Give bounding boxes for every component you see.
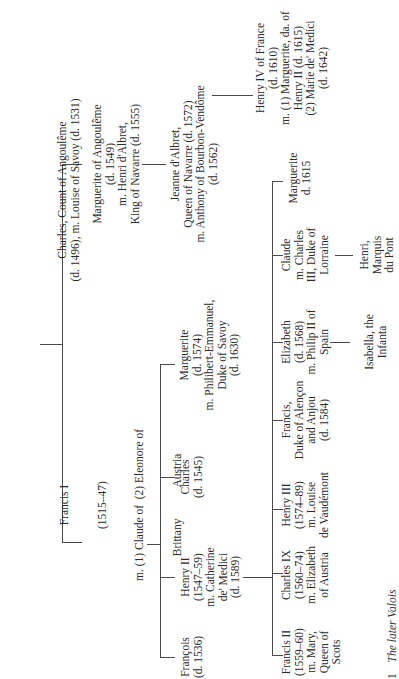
detail-line: (d. 1568) <box>293 309 306 374</box>
detail-line: Henry II (d. 1615) <box>291 11 304 125</box>
detail-line: and Anjou <box>305 381 318 460</box>
detail-line: de Vaudémont <box>318 472 331 538</box>
connector-to-francois <box>160 657 175 658</box>
detail-line: m. Catherine <box>204 547 217 606</box>
detail-line: Spain <box>318 309 331 374</box>
detail-line: (d. 1630) <box>228 300 241 411</box>
name-line: Marguerite of Angoulême <box>91 104 104 224</box>
connector-to-henri-marquis <box>335 255 353 256</box>
connector-to-isabella <box>330 342 350 343</box>
detail-line: (d. 1545) <box>191 456 204 498</box>
detail-line: (d. 1610) <box>266 11 279 125</box>
caption-number: 1 <box>386 673 398 679</box>
name-line: Henry IV of France <box>254 11 267 125</box>
name-line: Charles <box>179 456 192 498</box>
connector-to-marguerite-1574 <box>160 364 175 365</box>
detail-line: (1560–74) <box>293 546 306 604</box>
name-line: Charles IX <box>280 546 293 604</box>
detail-line: m. Philibert-Emmanuel, <box>203 300 216 411</box>
name-line: Marguerite <box>178 300 191 411</box>
detail-line: m. Elizabeth <box>305 546 318 604</box>
name-line: Claude <box>280 228 293 283</box>
detail-line: (d. 1574) <box>190 300 203 411</box>
name-line: François <box>179 636 192 678</box>
connector-to-jeanne <box>142 164 166 165</box>
detail-line: (1559–60) <box>292 628 305 676</box>
detail-line: Infanta <box>375 314 388 370</box>
name-line: Henry III <box>280 472 293 538</box>
name-line: Francis I <box>58 429 71 581</box>
name-line: Francis, <box>280 381 293 460</box>
name-line: Jeanne d'Albret, <box>169 85 182 242</box>
detail-line: m. Charles <box>293 228 306 283</box>
detail-line: (1574–89) <box>293 472 306 538</box>
detail-line: (d. 1642) <box>316 11 329 125</box>
detail-line: (d. 1589) <box>229 547 242 606</box>
caption-title: The later Valois <box>386 590 398 663</box>
name-line: Marguerite <box>287 153 300 204</box>
detail-line: Scots <box>330 628 343 676</box>
detail-line: m. Philip II of <box>305 309 318 374</box>
detail-line: m. Anthony of Bourbon-Vendôme <box>194 85 207 242</box>
detail-line: (1547–59) <box>191 547 204 606</box>
detail-line: (d. 1549) <box>104 104 117 224</box>
detail-line: du Pont <box>383 236 396 274</box>
detail-line: m. (1) Marguerite, da. of <box>279 11 292 125</box>
name-line: Henri, <box>358 236 371 274</box>
connector-henry-ii-stub <box>243 577 272 578</box>
name-line: Francis II <box>280 628 293 676</box>
detail-line: Queen of <box>317 628 330 676</box>
detail-line: (d. 1562) <box>207 85 220 242</box>
detail-line: of Austria <box>318 546 331 604</box>
name-line: Elizabeth <box>280 309 293 374</box>
name-line: Isabella, the <box>363 314 376 370</box>
connector-root-stub <box>40 344 62 345</box>
detail-line: m. Louise <box>305 472 318 538</box>
detail-line: (1515–47) <box>95 429 108 581</box>
detail-line: Duke of Savoy <box>215 300 228 411</box>
detail-line: m. Mary, <box>305 628 318 676</box>
detail-line: (d. 1496), m. Louise of Savoy (d. 1531) <box>68 98 81 281</box>
detail-line: (2) Marie de' Medici <box>304 11 317 125</box>
connector-henry-ii-bracket <box>272 181 273 656</box>
detail-line: m. (1) Claude of (2) Eleonore of <box>133 429 146 581</box>
detail-line: (d. 1584) <box>318 381 331 460</box>
detail-line: Lorraine <box>318 228 331 283</box>
figure-caption: 1 The later Valois <box>386 590 398 679</box>
detail-line: Duke of Alençon <box>293 381 306 460</box>
connector-to-marguerite-1615 <box>272 181 283 182</box>
name-line: Henry II <box>179 547 192 606</box>
detail-line: m. Henri d'Albret, <box>116 104 129 224</box>
detail-line: Marquis <box>371 236 384 274</box>
name-line: Charles, Count of Angoulême <box>56 98 69 281</box>
detail-line: de' Medici <box>216 547 229 606</box>
detail-line: King of Navarre (d. 1555) <box>129 104 142 224</box>
detail-line: Queen of Navarre (d. 1572) <box>182 85 195 242</box>
detail-line: III, Duke of <box>305 228 318 283</box>
detail-line: d. 1615 <box>299 153 312 204</box>
detail-line: (d. 1536) <box>191 636 204 678</box>
